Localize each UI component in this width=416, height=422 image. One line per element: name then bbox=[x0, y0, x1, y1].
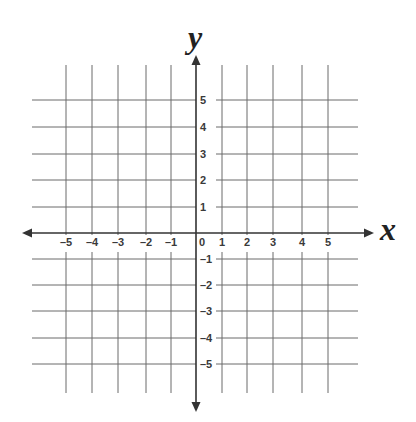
axes bbox=[22, 55, 374, 412]
x-tick-label: –5 bbox=[60, 236, 72, 248]
x-tick-label: –3 bbox=[112, 236, 124, 248]
y-tick-label: 1 bbox=[200, 201, 206, 213]
x-tick-label: 0 bbox=[199, 236, 205, 248]
coordinate-plane: –5–4–3–2–1012345 54321–1–2–3–4–5 x y bbox=[0, 0, 416, 422]
y-tick-label: 2 bbox=[200, 174, 206, 186]
vertical-grid-lines bbox=[66, 65, 328, 393]
y-axis-up-arrow-icon bbox=[192, 55, 201, 65]
x-axis-right-arrow-icon bbox=[364, 229, 374, 238]
y-axis-down-arrow-icon bbox=[192, 402, 201, 412]
x-tick-label: 3 bbox=[270, 236, 276, 248]
y-tick-labels: 54321–1–2–3–4–5 bbox=[200, 94, 213, 370]
x-tick-label: –2 bbox=[140, 236, 152, 248]
y-tick-label: –1 bbox=[200, 253, 212, 265]
x-tick-label: 4 bbox=[299, 236, 306, 248]
y-tick-label: –5 bbox=[200, 358, 212, 370]
y-tick-label: 5 bbox=[200, 94, 206, 106]
x-tick-label: 5 bbox=[325, 236, 331, 248]
y-tick-label: –2 bbox=[200, 279, 212, 291]
x-axis-left-arrow-icon bbox=[22, 229, 32, 238]
y-tick-label: 4 bbox=[200, 121, 207, 133]
horizontal-grid-lines bbox=[32, 100, 358, 364]
y-axis-name: y bbox=[184, 19, 203, 55]
x-tick-label: 2 bbox=[244, 236, 250, 248]
x-tick-label: –1 bbox=[165, 236, 177, 248]
x-tick-label: –4 bbox=[86, 236, 99, 248]
y-tick-label: 3 bbox=[200, 148, 206, 160]
y-tick-label: –3 bbox=[200, 305, 212, 317]
y-tick-label: –4 bbox=[200, 332, 213, 344]
x-axis-name: x bbox=[379, 211, 396, 247]
x-tick-label: 1 bbox=[219, 236, 225, 248]
